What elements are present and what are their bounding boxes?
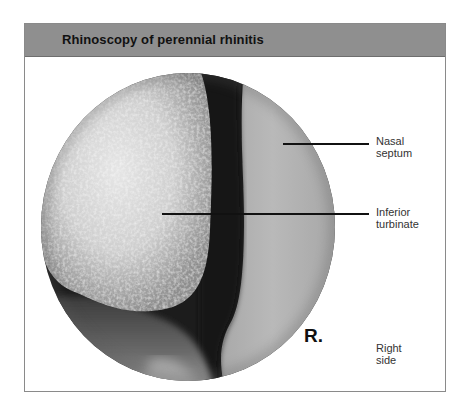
label-right-side-line2: side — [376, 354, 402, 366]
label-nasal-septum-line2: septum — [376, 147, 412, 159]
label-inferior-turbinate-line2: turbinate — [376, 218, 419, 230]
label-right-side-line1: Right — [376, 342, 402, 354]
label-nasal-septum: Nasal septum — [376, 135, 412, 159]
label-inferior-turbinate-line1: Inferior — [376, 206, 419, 218]
label-right-side: Right side — [376, 342, 402, 366]
nasal-septum-leader-line — [283, 143, 369, 145]
side-marker: R. — [304, 325, 323, 347]
label-inferior-turbinate: Inferior turbinate — [376, 206, 419, 230]
inferior-turbinate-leader-line — [162, 213, 369, 215]
label-nasal-septum-line1: Nasal — [376, 135, 412, 147]
